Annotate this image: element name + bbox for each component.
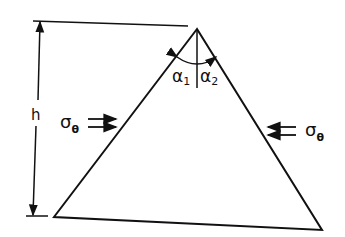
top-extension-line bbox=[33, 21, 188, 26]
height-label: h bbox=[31, 106, 41, 124]
triangle-diagram: h α1 α2 σθ σθ bbox=[0, 0, 345, 237]
triangle bbox=[54, 29, 322, 230]
sigma-left-label: σθ bbox=[60, 111, 79, 136]
alpha2-arc bbox=[197, 57, 216, 64]
diagram: h α1 α2 σθ σθ bbox=[0, 0, 345, 237]
height-dimension-arrow-down bbox=[33, 126, 36, 215]
alpha1-arc bbox=[177, 57, 197, 64]
alpha2-label: α2 bbox=[200, 66, 218, 88]
alpha1-label: α1 bbox=[172, 66, 190, 88]
sigma-right-label: σθ bbox=[305, 119, 324, 144]
height-dimension-arrow-up bbox=[38, 22, 40, 100]
